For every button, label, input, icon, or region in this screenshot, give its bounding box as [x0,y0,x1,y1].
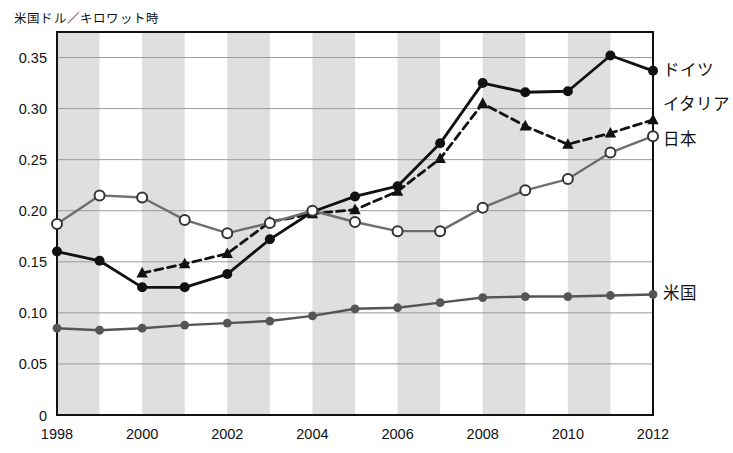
background-band [57,32,100,415]
data-point-marker [563,292,572,301]
background-band [398,32,441,415]
background-band [568,32,611,415]
y-tick-label: 0.15 [19,254,47,270]
background-band [142,32,185,415]
data-point-marker [52,247,62,257]
data-point-marker [478,203,488,213]
legend-label-イタリア: イタリア [663,95,730,113]
data-point-marker [265,317,274,326]
data-point-marker [393,303,402,312]
data-point-marker [520,87,530,97]
y-tick-label: 0.25 [19,152,47,168]
data-point-marker [265,234,275,244]
data-point-marker [138,324,147,333]
data-point-marker [648,131,658,141]
legend-label-ドイツ: ドイツ [663,61,714,79]
legend-label-日本: 日本 [663,130,697,148]
data-point-marker [95,256,105,266]
y-tick-label: 0 [39,408,47,424]
x-tick-label: 2006 [381,426,413,442]
x-axis-tick-labels: 19982000200220042006200820102012 [41,426,669,442]
data-point-marker [478,78,488,88]
data-point-marker [222,269,232,279]
legend-label-米国: 米国 [663,284,697,302]
data-point-marker [223,319,232,328]
data-point-marker [435,138,445,148]
y-tick-label: 0.35 [19,50,47,66]
data-point-marker [350,191,360,201]
x-tick-label: 2008 [467,426,499,442]
data-point-marker [647,114,658,125]
data-point-marker [180,215,190,225]
data-point-marker [307,206,317,216]
data-point-marker [137,192,147,202]
data-point-marker [649,290,658,299]
data-point-marker [393,226,403,236]
x-tick-label: 1998 [41,426,73,442]
data-point-marker [436,298,445,307]
y-tick-label: 0.10 [19,305,47,321]
data-point-marker [563,174,573,184]
y-tick-label: 0.05 [19,356,47,372]
data-point-marker [605,50,615,60]
chart-canvas: 00.050.100.150.200.250.300.35 1998200020… [0,0,733,453]
data-point-marker [95,190,105,200]
data-point-marker [308,312,317,321]
data-point-marker [180,282,190,292]
data-point-marker [478,293,487,302]
data-point-marker [605,148,615,158]
background-band [312,32,355,415]
y-tick-label: 0.20 [19,203,47,219]
data-point-marker [350,217,360,227]
data-point-marker [180,321,189,330]
x-tick-label: 2012 [637,426,669,442]
data-point-marker [520,185,530,195]
x-tick-label: 2000 [126,426,158,442]
data-point-marker [95,326,104,335]
data-point-marker [648,66,658,76]
x-tick-label: 2002 [211,426,243,442]
data-point-marker [351,304,360,313]
series-legend: ドイツイタリア日本米国 [663,61,730,303]
data-point-marker [606,291,615,300]
y-axis-tick-labels: 00.050.100.150.200.250.300.35 [19,50,47,423]
electricity-price-line-chart: 米国ドル／キロワット時 00.050.100.150.200.250.300.3… [0,0,733,453]
y-axis-title: 米国ドル／キロワット時 [14,8,159,27]
x-tick-label: 2004 [296,426,328,442]
y-tick-label: 0.30 [19,101,47,117]
data-point-marker [563,86,573,96]
data-point-marker [265,218,275,228]
data-point-marker [435,226,445,236]
data-point-marker [521,292,530,301]
data-point-marker [137,282,147,292]
data-point-marker [52,219,62,229]
data-point-marker [222,228,232,238]
data-point-marker [53,324,62,333]
x-tick-label: 2010 [552,426,584,442]
